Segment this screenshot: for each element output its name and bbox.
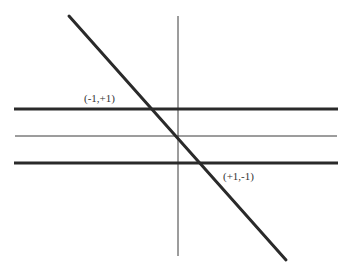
label-lower-point: (+1,-1) xyxy=(223,170,254,183)
background xyxy=(0,0,345,277)
diagram-canvas: (-1,+1) (+1,-1) xyxy=(0,0,345,277)
label-upper-point: (-1,+1) xyxy=(84,92,115,105)
